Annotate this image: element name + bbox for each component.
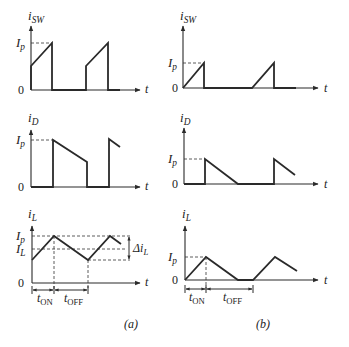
i-sw-plot-a: iSWt0Ip [15,8,149,97]
zero-label: 0 [18,276,24,290]
waveform-trace [185,257,297,280]
level-label: Ip [167,55,177,72]
timing-label: tOFF [223,290,242,306]
panel-caption: (a) [124,317,138,331]
level-label: Ip [167,249,177,266]
timing-label: tOFF [64,291,83,307]
i-sw-plot-b: iSWt0Ip [167,8,328,95]
time-axis-label: t [324,177,328,191]
timing-label: tON [189,290,206,306]
panel-b-discontinuous-mode: iSWt0IpiDt0IpiLt0IptONtOFF(b) [167,8,328,331]
waveform-trace [183,63,296,88]
zero-label: 0 [172,273,178,287]
waveform-trace [31,139,120,187]
y-axis-label: iSW [28,8,45,25]
y-axis-label: iD [28,110,39,127]
i-d-plot-a: iDt0Ip [15,110,149,194]
waveform-figure: iSWt0IpiDt0IpiLt0IpILΔiLtONtOFF(a) iSWt0… [0,0,349,347]
zero-label: 0 [172,177,178,191]
timing-label: tON [37,291,54,307]
level-label: Ip [167,151,177,168]
panel-caption: (b) [256,317,270,331]
time-axis-label: t [324,81,328,95]
time-axis-label: t [145,82,149,96]
i-d-plot-b: iDt0Ip [167,110,328,191]
time-axis-label: t [145,179,149,193]
level-label: Ip [15,35,25,52]
y-axis-label: iL [28,206,37,223]
time-axis-label: t [324,273,328,287]
zero-label: 0 [18,83,24,97]
i-l-plot-b: iLt0IptONtOFF [167,206,328,306]
level-label: Ip [15,132,25,149]
y-axis-label: iD [180,110,191,127]
zero-label: 0 [18,180,24,194]
waveform-trace [32,236,121,260]
y-axis-label: iL [182,206,191,223]
y-axis-label: iSW [180,8,197,25]
zero-label: 0 [172,81,178,95]
panel-a-continuous-mode: iSWt0IpiDt0IpiLt0IpILΔiLtONtOFF(a) [15,8,149,331]
ripple-label: ΔiL [132,241,148,257]
waveform-trace [31,43,120,90]
time-axis-label: t [145,275,149,289]
i-l-plot-a: iLt0IpILΔiLtONtOFF [15,206,149,307]
waveform-trace [184,159,295,184]
